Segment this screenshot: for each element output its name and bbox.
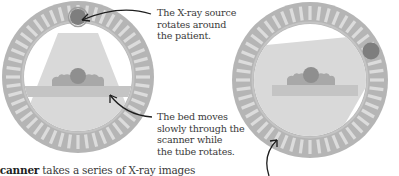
bed-annotation-line: scanner while [157, 134, 245, 146]
source-annotation-line: the patient. [157, 30, 236, 42]
source-annotation-line: rotates around [157, 19, 236, 31]
bed-annotation-line: the tube rotates. [157, 146, 245, 158]
caption-text: takes a series of X-ray images [39, 164, 195, 176]
caption-bold-word: scanner [0, 164, 39, 176]
left-bed [20, 86, 140, 97]
left-patient-head [70, 68, 86, 84]
right-bed [272, 85, 358, 96]
right-xray-source-icon [363, 43, 380, 60]
caption: scanner takes a series of X-ray images [0, 164, 195, 176]
left-xray-source-icon [70, 9, 86, 25]
source-annotation: The X-ray source rotates around the pati… [157, 7, 236, 42]
bed-annotation-line: slowly through the [157, 123, 245, 135]
right-patient-head [303, 67, 319, 83]
bed-annotation-line: The bed moves [157, 111, 245, 123]
bed-annotation: The bed moves slowly through the scanner… [157, 111, 245, 157]
source-annotation-line: The X-ray source [157, 7, 236, 19]
